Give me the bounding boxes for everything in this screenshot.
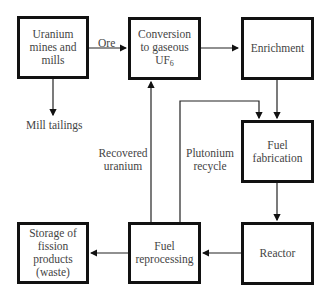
edge-label-recovered-uranium-line1: Recovered — [98, 147, 148, 160]
node-fuel-fabrication-label: Fuel fabrication — [250, 139, 305, 165]
node-storage-label: Storage of fission products (waste) — [26, 227, 80, 279]
node-reactor-label: Reactor — [260, 247, 296, 260]
edge-label-recovered-uranium-line2: uranium — [98, 160, 148, 173]
node-fuel-fabrication: Fuel fabrication — [241, 120, 314, 183]
node-uranium-mines: Uranium mines and mills — [17, 16, 89, 79]
edge-label-recovered-uranium: Recovered uranium — [98, 147, 148, 173]
edge-label-plutonium-recycle-line1: Plutonium — [185, 147, 235, 160]
node-conversion-formula-subscript: 6 — [170, 59, 174, 68]
node-reactor: Reactor — [241, 222, 314, 285]
edge-label-plutonium-recycle-line2: recycle — [185, 160, 235, 173]
edge-label-plutonium-recycle: Plutonium recycle — [185, 147, 235, 173]
node-conversion-label: Conversion to gaseous — [131, 28, 198, 54]
node-enrichment: Enrichment — [241, 17, 314, 80]
node-storage: Storage of fission products (waste) — [17, 222, 89, 284]
edge-label-mill-tailings: Mill tailings — [26, 119, 83, 132]
node-uranium-mines-label: Uranium mines and mills — [26, 28, 80, 67]
node-conversion-formula-base: UF — [155, 54, 170, 66]
node-conversion-formula: UF6 — [155, 54, 174, 70]
node-fuel-reprocessing: Fuel reprocessing — [128, 222, 201, 284]
node-enrichment-label: Enrichment — [251, 42, 305, 55]
node-conversion: Conversion to gaseous UF6 — [128, 17, 201, 80]
node-fuel-reprocessing-label: Fuel reprocessing — [135, 240, 194, 266]
edge-label-ore: Ore — [98, 37, 115, 50]
